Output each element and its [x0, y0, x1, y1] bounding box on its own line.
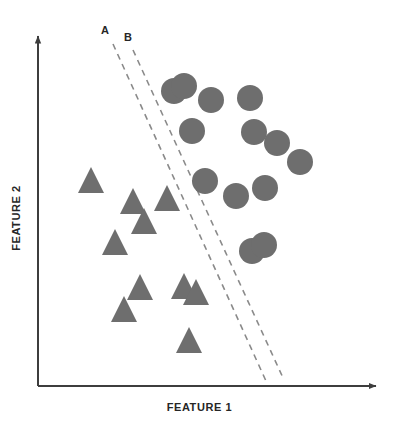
data-point-circle [287, 149, 313, 175]
data-point-circle [192, 168, 218, 194]
data-point-triangle [127, 274, 153, 300]
data-point-circle [223, 183, 249, 209]
data-point-circle [198, 87, 224, 113]
data-point-circle [179, 118, 205, 144]
data-points-circles [161, 73, 313, 264]
boundary-label-a: A [101, 24, 109, 36]
data-point-circle [251, 232, 277, 258]
data-point-triangle [78, 167, 104, 193]
data-point-circle [237, 85, 263, 111]
data-point-triangle [154, 185, 180, 211]
scatter-plot-figure: A B FEATURE 1 FEATURE 2 [0, 0, 399, 432]
data-point-triangle [176, 327, 202, 353]
data-point-circle [252, 175, 278, 201]
boundary-label-b: B [124, 31, 132, 43]
data-points-triangles [78, 167, 209, 353]
x-axis-label: FEATURE 1 [0, 401, 399, 413]
data-point-circle [241, 119, 267, 145]
plot-canvas [0, 0, 399, 432]
data-point-circle [264, 130, 290, 156]
data-point-triangle [102, 229, 128, 255]
y-axis-label: FEATURE 2 [10, 158, 22, 278]
data-point-triangle [120, 188, 146, 214]
data-point-circle [171, 73, 197, 99]
